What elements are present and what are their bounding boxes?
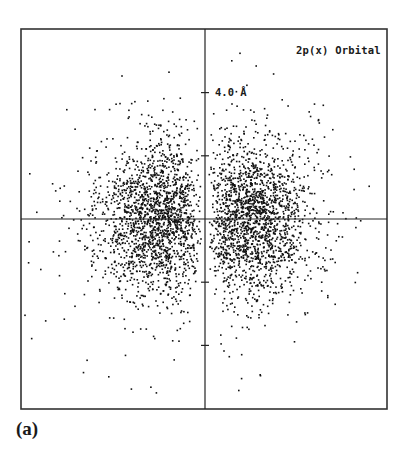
panel-label: (a)	[16, 418, 38, 440]
data-points	[24, 53, 370, 394]
figure: 2p(x) Orbital 4.0 Å (a)	[0, 0, 408, 459]
scatter-plot	[0, 0, 408, 459]
chart-title: 2p(x) Orbital	[296, 44, 381, 56]
y-tick-label-4A: 4.0 Å	[215, 86, 247, 98]
